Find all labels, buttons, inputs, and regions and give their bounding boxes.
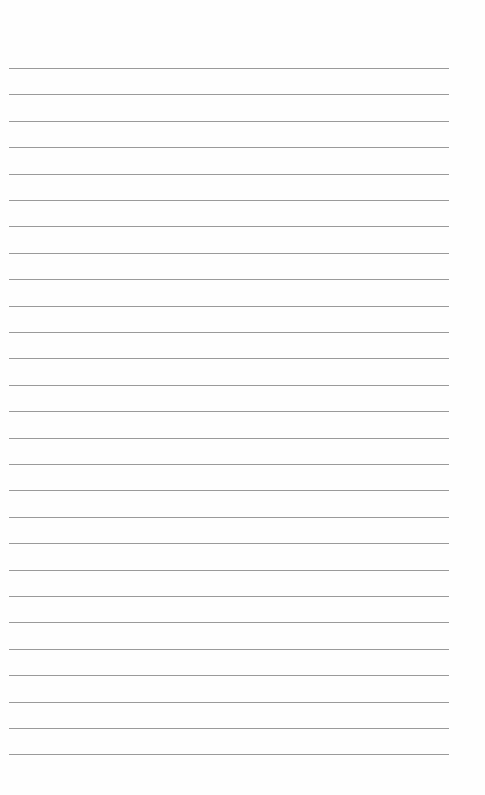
ruled-line [9,68,449,69]
ruled-line [9,279,449,280]
ruled-line [9,358,449,359]
ruled-line [9,517,449,518]
ruled-line [9,253,449,254]
ruled-line [9,596,449,597]
ruled-line [9,385,449,386]
ruled-line [9,675,449,676]
ruled-line [9,411,449,412]
lined-paper-page [0,0,485,795]
ruled-line [9,306,449,307]
ruled-line [9,728,449,729]
ruled-line [9,332,449,333]
ruled-line [9,622,449,623]
ruled-line [9,702,449,703]
ruled-line [9,174,449,175]
ruled-line [9,464,449,465]
ruled-line [9,490,449,491]
ruled-line [9,121,449,122]
ruled-line [9,226,449,227]
ruled-line [9,649,449,650]
ruled-line [9,543,449,544]
ruled-line [9,438,449,439]
ruled-line [9,94,449,95]
ruled-line [9,200,449,201]
ruled-line [9,754,449,755]
ruled-line [9,147,449,148]
ruled-line [9,570,449,571]
